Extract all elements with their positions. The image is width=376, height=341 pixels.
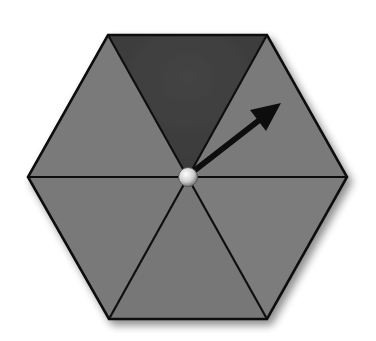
spinner-diagram bbox=[0, 0, 376, 341]
pivot-knob bbox=[179, 168, 198, 187]
